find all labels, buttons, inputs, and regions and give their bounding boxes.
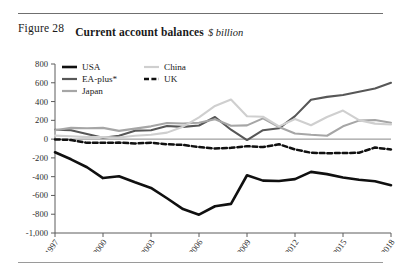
bottom-divider [18,262,383,263]
y-tick-label: 0 [44,134,48,144]
y-axis: 8006004002000-200-400-600-800-1,000 [26,59,55,238]
y-tick-label: 800 [35,59,48,69]
y-tick-label: 400 [35,97,48,107]
y-tick-label: -1,000 [26,228,48,238]
figure-caption: Figure 28 Current account balances $ bil… [18,22,388,40]
x-tick-label: 2006 [187,237,205,252]
y-tick-label: -800 [32,209,48,219]
y-tick-label: -200 [32,153,48,163]
y-tick-label: 200 [35,115,48,125]
figure-number: Figure 28 [18,22,64,34]
x-tick-label: 2012 [283,237,301,252]
figure-container: Figure 28 Current account balances $ bil… [0,0,399,271]
figure-subtitle: $ billion [208,27,243,38]
y-tick-label: -600 [32,190,48,200]
legend-label-japan: Japan [82,86,103,96]
chart-legend: USAEA-plus*JapanChinaUK [62,62,186,96]
plot-area: 8006004002000-200-400-600-800-1,000 1997… [0,52,399,252]
legend-label-usa: USA [82,62,101,72]
page-title: Current account balances [75,26,204,38]
x-tick-label: 2015 [331,237,349,252]
line-chart: 8006004002000-200-400-600-800-1,000 1997… [0,52,399,252]
x-tick-label: 2018 [379,237,397,252]
x-tick-label: 1997 [43,237,61,252]
caption-text-block: Current account balances $ billion [75,22,243,40]
x-axis: 19972000200320062009201220152018 [43,233,397,252]
y-tick-label: 600 [35,78,48,88]
series-line-china [55,100,391,138]
series-line-uk [55,139,391,153]
y-tick-label: -400 [32,172,48,182]
legend-label-ea-plus: EA-plus* [82,74,118,84]
legend-label-china: China [164,62,186,72]
top-divider [18,13,383,14]
x-tick-label: 2000 [91,237,109,252]
series-line-japan [55,118,391,135]
x-tick-label: 2009 [235,237,253,252]
legend-label-uk: UK [164,74,178,84]
series-line-usa [55,152,391,214]
series-lines [55,83,391,215]
x-tick-label: 2003 [139,237,157,252]
